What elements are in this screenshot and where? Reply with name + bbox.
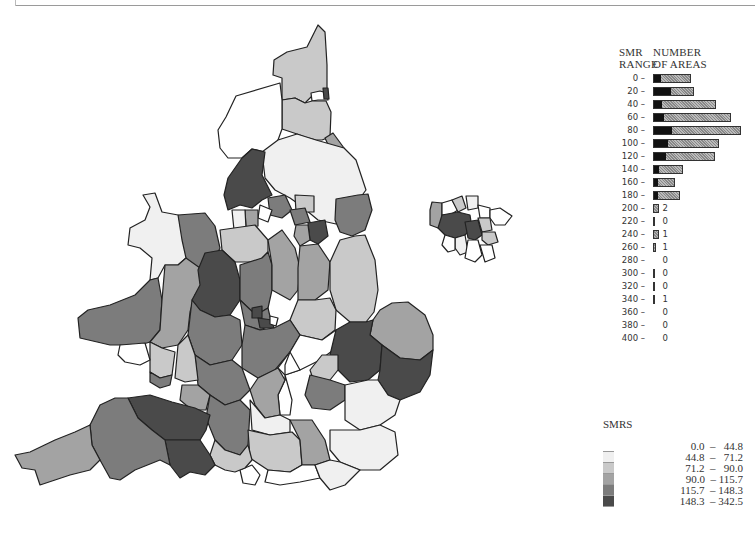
map-region [268, 195, 292, 218]
map-region [78, 278, 162, 345]
histogram-row: 180 –4 [600, 190, 755, 201]
histogram-row: 80 –16 [600, 125, 755, 136]
histogram-row: 360 –0 [600, 307, 755, 318]
map-region [15, 425, 100, 485]
histogram-bar [653, 126, 741, 135]
legend-item: 148.3 – 342.5 [603, 496, 753, 507]
smr-range-label: 380 – [600, 320, 645, 330]
smr-range-label: 300 – [600, 268, 645, 278]
area-count: 0 [658, 307, 668, 317]
histogram-bar [653, 243, 656, 252]
smr-range-label: 320 – [600, 281, 645, 291]
legend-swatch [603, 463, 614, 474]
bar-dark-segment [654, 114, 664, 121]
histogram-bar [653, 74, 691, 83]
area-count: 1 [658, 229, 668, 239]
legend-title: SMRS [603, 418, 632, 430]
histogram-row: 220 –0 [600, 216, 755, 227]
histogram-bar [653, 87, 694, 96]
map-region [482, 232, 498, 245]
histogram-bar [653, 269, 655, 278]
legend-swatch [603, 452, 614, 463]
map-region [248, 430, 302, 472]
bar-dark-segment [654, 127, 672, 134]
area-count: 0 [658, 268, 668, 278]
smr-range-label: 180 – [600, 190, 645, 200]
histogram-row: 260 –1 [600, 242, 755, 253]
smr-range-label: 100 – [600, 138, 645, 148]
london-inset [430, 196, 512, 262]
smr-range-label: 0 – [600, 73, 645, 83]
legend-swatch [603, 485, 614, 496]
area-count: 0 [658, 281, 668, 291]
map-region [335, 194, 372, 236]
histogram-row: 160 –4 [600, 177, 755, 188]
histogram-bar [653, 230, 659, 239]
histogram-row: 340 –1 [600, 294, 755, 305]
header-line-1: NUMBER [653, 46, 707, 58]
legend-label: 148.3 – 342.5 [680, 496, 743, 507]
smr-range-label: 220 – [600, 216, 645, 226]
histogram-row: 200 –2 [600, 203, 755, 214]
smr-range-label: 80 – [600, 125, 645, 135]
map-region [298, 244, 330, 300]
histogram-bar [653, 152, 715, 161]
bar-dark-segment [654, 192, 658, 199]
map-region [305, 375, 345, 410]
bar-dark-segment [654, 153, 666, 160]
choropleth-map [0, 0, 600, 540]
histogram-bar [653, 282, 655, 291]
number-of-areas-header: NUMBER OF AREAS [653, 46, 707, 70]
area-count: 0 [658, 320, 668, 330]
smr-range-label: 20 – [600, 86, 645, 96]
map-region [330, 235, 378, 322]
histogram-row: 380 –0 [600, 320, 755, 331]
histogram-bar [653, 139, 719, 148]
legend-swatch [603, 474, 614, 485]
histogram-row: 240 –1 [600, 229, 755, 240]
bar-dark-segment [654, 75, 661, 82]
map-region [252, 306, 262, 318]
bar-dark-segment [654, 140, 668, 147]
legend-swatch [603, 496, 614, 507]
area-count: 0 [658, 216, 668, 226]
smr-range-label: 240 – [600, 229, 645, 239]
map-region [165, 440, 215, 478]
histogram-bar [653, 217, 655, 226]
bar-dark-segment [654, 179, 658, 186]
map-region [465, 240, 482, 262]
map-region [268, 230, 300, 300]
histogram-row: 100 –13 [600, 138, 755, 149]
histogram-row: 280 –0 [600, 255, 755, 266]
histogram-bar [653, 165, 683, 174]
histogram-bar [653, 100, 716, 109]
smr-range-label: 40 – [600, 99, 645, 109]
area-count: 0 [658, 333, 668, 343]
histogram-row: 60 –10 [600, 112, 755, 123]
histogram-row: 0 –6 [600, 73, 755, 84]
smr-range-label: 120 – [600, 151, 645, 161]
smr-range-label: 400 – [600, 333, 645, 343]
histogram-row: 320 –0 [600, 281, 755, 292]
histogram-row: 40 –8 [600, 99, 755, 110]
smr-range-label: 340 – [600, 294, 645, 304]
histogram-row: 120 –12 [600, 151, 755, 162]
histogram-bar [653, 113, 731, 122]
map-region [270, 316, 278, 326]
histogram-row: 20 –15 [600, 86, 755, 97]
histogram-bar [653, 178, 675, 187]
map-region [490, 208, 512, 225]
area-count: 1 [658, 242, 668, 252]
smr-range-label: 260 – [600, 242, 645, 252]
area-count: 2 [658, 203, 668, 213]
smr-range-label: 360 – [600, 307, 645, 317]
map-region [442, 235, 455, 252]
histogram-bar [653, 204, 659, 213]
bar-dark-segment [654, 166, 659, 173]
histogram-row: 140 –5 [600, 164, 755, 175]
smr-range-label: 280 – [600, 255, 645, 265]
histogram-bar [653, 191, 680, 200]
map-region [323, 88, 329, 99]
histogram-row: 400 –0 [600, 333, 755, 344]
bar-dark-segment [654, 88, 671, 95]
